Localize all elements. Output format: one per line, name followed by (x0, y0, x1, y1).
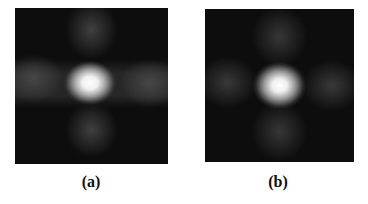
panel-caption-b: (b) (248, 173, 308, 191)
image-panel-b (205, 9, 354, 162)
image-panel-a (15, 8, 168, 164)
panel-caption-a: (a) (61, 173, 121, 191)
central-peak (205, 9, 354, 162)
central-peak (15, 8, 168, 164)
